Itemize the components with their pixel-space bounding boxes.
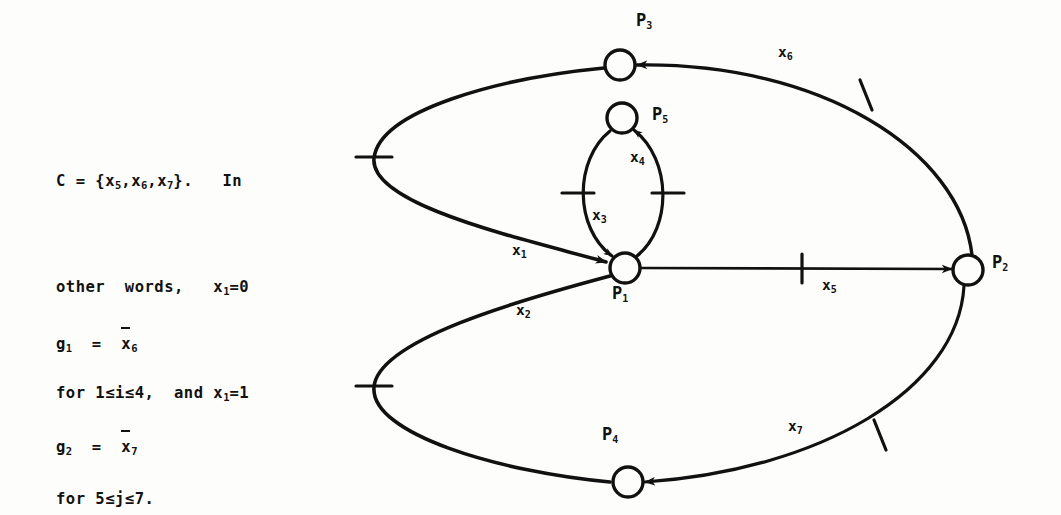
- edge-label-x4: x4: [630, 149, 645, 167]
- edge-x5: [641, 268, 952, 269]
- edge-label-x1: x1: [512, 242, 527, 260]
- tick-x6: [860, 80, 872, 110]
- node-label-P2: P2: [992, 252, 1008, 273]
- edge-x7: [645, 286, 964, 482]
- edge-label-x6: x6: [778, 44, 793, 62]
- edge-label-x5: x5: [822, 277, 837, 295]
- node-label-P3: P3: [636, 10, 652, 31]
- edge-label-x7: x7: [788, 418, 803, 436]
- node-P4[interactable]: [613, 467, 643, 497]
- node-P1[interactable]: [610, 253, 640, 283]
- node-P5[interactable]: [607, 103, 637, 133]
- node-label-P4: P4: [602, 424, 618, 445]
- node-P3[interactable]: [605, 50, 635, 80]
- edge-x1: [374, 68, 606, 262]
- edge-x6: [637, 65, 972, 255]
- node-P2[interactable]: [953, 255, 983, 285]
- edge-label-x3: x3: [592, 207, 607, 225]
- edge-x2: [374, 276, 610, 482]
- edge-label-x2: x2: [516, 302, 531, 320]
- node-label-P5: P5: [652, 104, 668, 125]
- figure-canvas: C = {x5,x6,x7}. In other words, x1=0 for…: [0, 0, 1061, 515]
- node-label-P1: P1: [612, 283, 628, 304]
- state-graph: [0, 0, 1061, 515]
- tick-x7: [874, 420, 886, 450]
